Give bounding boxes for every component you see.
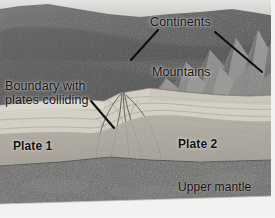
right-edge-border bbox=[271, 0, 275, 218]
label-plate-1: Plate 1 bbox=[13, 140, 52, 153]
bottom-edge-border bbox=[0, 215, 275, 218]
label-boundary-with-plates-colliding: Boundary with plates colliding bbox=[5, 80, 89, 107]
label-plate-2: Plate 2 bbox=[178, 138, 217, 151]
label-mountains: Mountains bbox=[152, 66, 211, 80]
label-continents: Continents bbox=[150, 16, 211, 30]
label-upper-mantle: Upper mantle bbox=[178, 181, 251, 194]
plate-tectonics-diagram: Continents Mountains Boundary with plate… bbox=[0, 0, 275, 218]
